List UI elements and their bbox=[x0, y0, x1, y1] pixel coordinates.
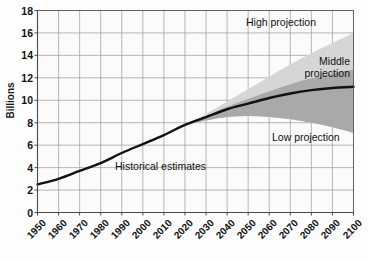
population-projection-chart: 024681012141618 Billions 195019601970198… bbox=[0, 0, 368, 262]
annotation-historical-estimates: Historical estimates bbox=[115, 160, 206, 172]
annotation-low-projection: Low projection bbox=[272, 131, 340, 143]
annotation-high-projection: High projection bbox=[246, 16, 316, 28]
annotation-middle-projection: Middle projection bbox=[278, 55, 350, 79]
